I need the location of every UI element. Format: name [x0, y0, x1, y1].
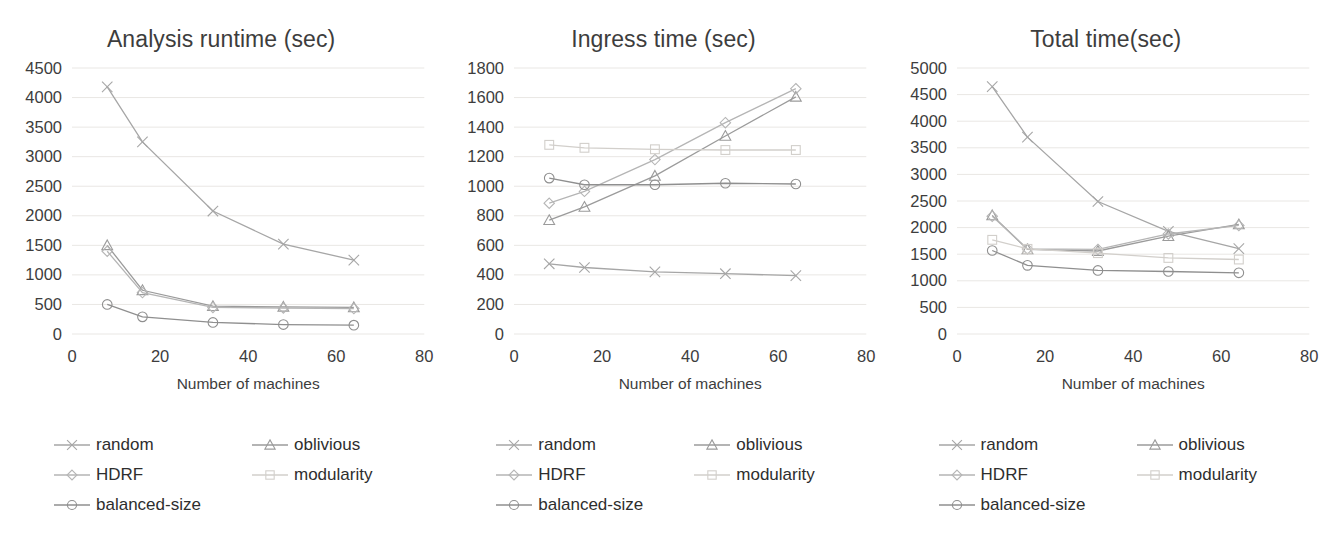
legend-marker-triangle-icon [692, 436, 732, 454]
data-point-marker-triangle [102, 240, 113, 250]
x-axis-tick-label: 0 [952, 347, 961, 365]
legend-item-label: HDRF [538, 466, 585, 484]
legend-item-HDRF[interactable]: HDRF [937, 466, 1135, 484]
data-point-marker-cross [278, 239, 288, 249]
line-chart-svg: 0500100015002000250030003500400045000204… [0, 56, 442, 406]
legend-item-label: random [538, 436, 596, 454]
x-axis-tick-label: 60 [769, 347, 787, 365]
x-axis-tick-label: 80 [1300, 347, 1318, 365]
legend-marker-circle-icon [52, 496, 92, 514]
y-axis-tick-label: 4000 [25, 88, 62, 106]
legend-item-label: random [96, 436, 154, 454]
x-axis-tick-label: 20 [1035, 347, 1053, 365]
legend-marker-diamond-icon [937, 466, 977, 484]
charts-board: Analysis runtime (sec) 05001000150020002… [0, 0, 1327, 555]
legend-item-oblivious[interactable]: oblivious [1135, 436, 1327, 454]
legend-marker-cross-icon [937, 436, 977, 454]
y-axis-tick-label: 0 [53, 325, 62, 343]
legend-item-label: oblivious [736, 436, 802, 454]
legend-item-label: oblivious [294, 436, 360, 454]
legend-item-random[interactable]: random [937, 436, 1135, 454]
data-point-marker-cross [1022, 132, 1032, 142]
series-oblivious [544, 91, 801, 224]
legend-item-balanced-size[interactable]: balanced-size [937, 496, 1135, 514]
x-axis-tick-label: 40 [681, 347, 699, 365]
series-random [102, 82, 359, 266]
y-axis-tick-label: 3000 [25, 147, 62, 165]
legend-item-balanced-size[interactable]: balanced-size [494, 496, 692, 514]
y-axis-tick-label: 600 [477, 236, 505, 254]
legend-marker-circle-icon [937, 496, 977, 514]
legend-item-modularity[interactable]: modularity [1135, 466, 1327, 484]
x-axis-tick-label: 20 [151, 347, 169, 365]
legend-marker-square-icon [692, 466, 732, 484]
y-axis-tick-label: 2000 [25, 206, 62, 224]
y-axis-tick-label: 1500 [25, 236, 62, 254]
series-line [107, 245, 354, 307]
y-axis-tick-label: 200 [477, 295, 505, 313]
data-point-marker-cross [102, 82, 112, 92]
y-axis-tick-label: 1000 [25, 265, 62, 283]
legend-item-label: HDRF [981, 466, 1028, 484]
legend-marker-diamond-icon [494, 466, 534, 484]
y-axis-tick-label: 0 [937, 325, 946, 343]
legend-item-oblivious[interactable]: oblivious [692, 436, 892, 454]
y-axis-tick-label: 500 [34, 295, 62, 313]
legend-grid: randomobliviousHDRFmodularitybalanced-si… [494, 430, 884, 520]
chart-panel-analysis-runtime: Analysis runtime (sec) 05001000150020002… [0, 0, 442, 555]
plot-area: 0500100015002000250030003500400045000204… [0, 56, 442, 406]
data-point-marker-cross [987, 81, 997, 91]
y-axis-tick-label: 1000 [910, 271, 947, 289]
y-axis-tick-label: 500 [919, 298, 947, 316]
series-line [550, 145, 797, 150]
x-axis-tick-label: 40 [1124, 347, 1142, 365]
legend-item-balanced-size[interactable]: balanced-size [52, 496, 250, 514]
x-axis-title: Number of machines [619, 375, 762, 392]
x-axis-title: Number of machines [1061, 375, 1204, 392]
x-axis-tick-label: 20 [593, 347, 611, 365]
y-axis-tick-label: 5000 [910, 59, 947, 77]
y-axis-tick-label: 400 [477, 265, 505, 283]
series-line [550, 178, 797, 185]
y-axis-tick-label: 2500 [910, 192, 947, 210]
chart-panel-total-time: Total time(sec) 050010001500200025003000… [885, 0, 1327, 555]
x-axis-tick-label: 80 [415, 347, 433, 365]
data-point-marker-cross [1092, 196, 1102, 206]
chart-legend: randomobliviousHDRFmodularitybalanced-si… [885, 430, 1327, 550]
legend-marker-diamond-icon [52, 466, 92, 484]
y-axis-tick-label: 1200 [468, 147, 505, 165]
data-point-marker-cross [137, 137, 147, 147]
legend-marker-circle-icon [494, 496, 534, 514]
legend-item-modularity[interactable]: modularity [692, 466, 892, 484]
legend-item-label: random [981, 436, 1039, 454]
line-chart-svg: 0200400600800100012001400160018000204060… [442, 56, 884, 406]
legend-item-label: modularity [1179, 466, 1257, 484]
x-axis-title: Number of machines [177, 375, 320, 392]
y-axis-tick-label: 2000 [910, 218, 947, 236]
y-axis-tick-label: 4500 [25, 59, 62, 77]
series-HDRF [102, 246, 359, 314]
y-axis-tick-label: 2500 [25, 177, 62, 195]
chart-legend: randomobliviousHDRFmodularitybalanced-si… [0, 430, 442, 550]
legend-item-label: balanced-size [981, 496, 1086, 514]
legend-item-HDRF[interactable]: HDRF [494, 466, 692, 484]
legend-item-HDRF[interactable]: HDRF [52, 466, 250, 484]
y-axis-tick-label: 4000 [910, 112, 947, 130]
y-axis-tick-label: 3000 [910, 165, 947, 183]
x-axis-tick-label: 80 [857, 347, 875, 365]
legend-marker-cross-icon [494, 436, 534, 454]
legend-item-modularity[interactable]: modularity [250, 466, 450, 484]
x-axis-tick-label: 0 [510, 347, 519, 365]
legend-grid: randomobliviousHDRFmodularitybalanced-si… [937, 430, 1327, 520]
y-axis-tick-label: 1800 [468, 59, 505, 77]
legend-item-random[interactable]: random [52, 436, 250, 454]
line-chart-svg: 0500100015002000250030003500400045005000… [885, 56, 1327, 406]
data-point-marker-cross [1233, 243, 1243, 253]
legend-item-oblivious[interactable]: oblivious [250, 436, 450, 454]
y-axis-tick-label: 1600 [468, 88, 505, 106]
legend-item-label: oblivious [1179, 436, 1245, 454]
x-axis-tick-label: 0 [67, 347, 76, 365]
series-modularity [545, 140, 800, 154]
legend-item-label: modularity [294, 466, 372, 484]
legend-item-random[interactable]: random [494, 436, 692, 454]
